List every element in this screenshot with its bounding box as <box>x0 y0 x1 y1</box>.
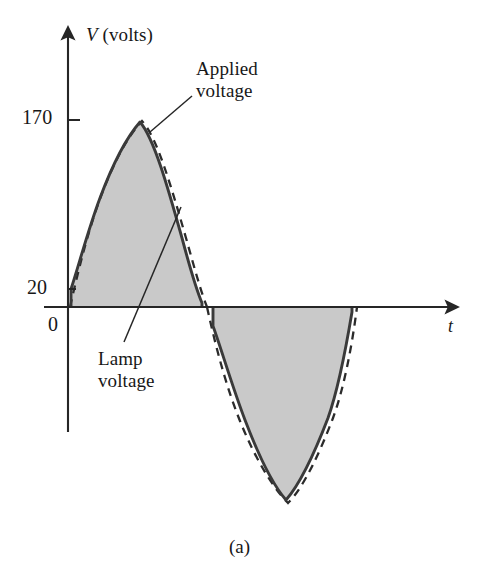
y-axis-label: V (volts) <box>86 24 153 46</box>
applied-voltage-line2: voltage <box>196 80 253 101</box>
x-axis-label: t <box>448 316 453 337</box>
lamp-voltage-line1: Lamp <box>98 348 143 369</box>
y-tick-label-170: 170 <box>22 106 52 129</box>
y-axis-unit: (volts) <box>98 24 153 45</box>
lamp-voltage-line2: voltage <box>98 370 155 391</box>
applied-voltage-leader-line <box>150 96 192 132</box>
y-tick-label-20: 20 <box>27 276 47 299</box>
lamp-voltage-area-positive <box>71 122 202 307</box>
figure-panel: V (volts) 170 20 0 t Appliedvoltage Lamp… <box>0 0 479 588</box>
y-tick-label-0: 0 <box>48 313 58 336</box>
applied-voltage-line1: Applied <box>196 58 258 79</box>
figure-caption: (a) <box>0 536 479 558</box>
lamp-voltage-annotation: Lampvoltage <box>98 348 155 391</box>
applied-voltage-annotation: Appliedvoltage <box>196 58 258 101</box>
y-axis-symbol: V <box>86 24 98 45</box>
